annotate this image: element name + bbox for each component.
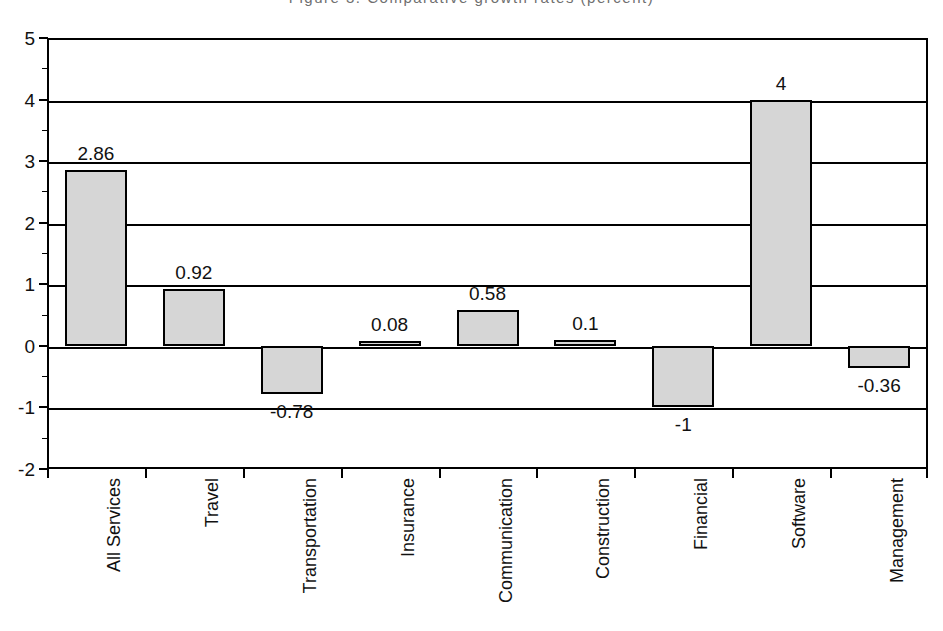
x-category-label: Financial <box>692 478 710 550</box>
x-category-label: Travel <box>203 478 221 527</box>
bar <box>359 341 421 346</box>
y-tick-label: 2 <box>1 214 35 233</box>
x-category-label: Management <box>888 478 906 583</box>
cut-off-title: Figure 3. Comparative growth rates (perc… <box>0 0 943 9</box>
x-category-label: Communication <box>497 478 515 603</box>
bar <box>261 346 323 394</box>
bar <box>457 310 519 346</box>
bar-value-label: -0.78 <box>243 402 341 421</box>
y-tick-label: -1 <box>1 398 35 417</box>
bar-value-label: 0.92 <box>145 263 243 282</box>
x-category-label: Transportation <box>301 478 319 593</box>
x-tick-mark <box>634 469 636 478</box>
x-category-label: All Services <box>105 478 123 572</box>
bar-value-label: 4 <box>732 74 830 93</box>
x-tick-mark <box>439 469 441 478</box>
gridline--1 <box>49 408 926 410</box>
x-tick-mark <box>732 469 734 478</box>
y-tick-label: 3 <box>1 152 35 171</box>
x-category-label: Software <box>790 478 808 549</box>
x-tick-mark <box>145 469 147 478</box>
bar <box>848 346 910 368</box>
bar <box>750 100 812 346</box>
bar-value-label: -1 <box>634 415 732 434</box>
bar-value-label: 0.08 <box>341 315 439 334</box>
bar <box>163 289 225 346</box>
bar <box>652 346 714 408</box>
x-tick-mark <box>243 469 245 478</box>
x-category-label: Construction <box>594 478 612 579</box>
y-tick-label: 4 <box>1 91 35 110</box>
bar-value-label: 0.58 <box>439 284 537 303</box>
bar <box>554 340 616 346</box>
y-tick-label: 1 <box>1 275 35 294</box>
bar <box>65 170 127 346</box>
x-tick-mark <box>47 469 49 478</box>
bar-value-label: 0.1 <box>536 314 634 333</box>
bar-value-label: -0.36 <box>830 376 928 395</box>
x-tick-mark <box>341 469 343 478</box>
x-tick-mark <box>926 469 928 478</box>
bar-chart: Figure 3. Comparative growth rates (perc… <box>0 0 943 631</box>
x-tick-mark <box>536 469 538 478</box>
x-category-label: Insurance <box>399 478 417 557</box>
bar-value-label: 2.86 <box>47 144 145 163</box>
y-tick-label: 0 <box>1 337 35 356</box>
y-tick-label: 5 <box>1 29 35 48</box>
gridline-0 <box>49 347 926 349</box>
x-tick-mark <box>830 469 832 478</box>
y-tick-label: -2 <box>1 460 35 479</box>
